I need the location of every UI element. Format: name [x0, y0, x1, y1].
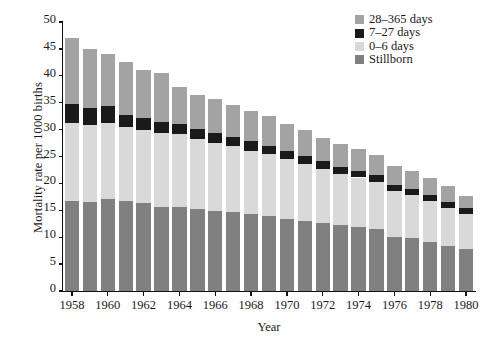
bar-segment	[244, 214, 258, 291]
stacked-bar-chart: Mortality rate per 1000 births 051015202…	[0, 0, 496, 347]
legend-item: Stillborn	[355, 53, 433, 66]
bar-segment	[369, 229, 383, 291]
bar-segment	[423, 242, 437, 291]
bar-1975	[369, 155, 383, 291]
y-tick-mark	[59, 290, 63, 291]
bar-segment	[244, 141, 258, 150]
bar-segment	[101, 54, 115, 106]
bar-1968	[244, 111, 258, 291]
x-tick-label: 1972	[310, 299, 335, 312]
bar-segment	[369, 182, 383, 229]
bar-segment	[226, 137, 240, 146]
x-tick-mark	[71, 291, 72, 296]
bar-segment	[262, 216, 276, 291]
x-tick-mark	[107, 291, 108, 296]
bar-1978	[423, 177, 437, 291]
bar-segment	[280, 151, 294, 159]
bar-segment	[405, 238, 419, 291]
bar-segment	[262, 154, 276, 216]
y-tick-label: 10	[44, 228, 57, 241]
bar-1958	[65, 38, 79, 291]
y-tick-mark	[59, 48, 63, 49]
bar-segment	[387, 237, 401, 291]
y-tick-label: 15	[44, 201, 57, 214]
x-tick-label: 1980	[454, 299, 479, 312]
legend-swatch-icon	[355, 55, 364, 64]
bar-segment	[154, 133, 168, 207]
bar-segment	[423, 195, 437, 201]
bar-segment	[262, 146, 276, 154]
bar-1962	[136, 70, 150, 291]
bar-segment	[423, 178, 437, 195]
bar-1980	[459, 196, 473, 291]
legend-label: 0–6 days	[369, 40, 414, 53]
y-tick-label: 25	[44, 148, 57, 161]
bar-segment	[441, 202, 455, 207]
bar-segment	[190, 129, 204, 139]
bar-segment	[154, 207, 168, 291]
bar-segment	[333, 144, 347, 167]
y-tick-label: 45	[44, 40, 57, 53]
y-tick-mark	[59, 21, 63, 22]
bar-segment	[119, 201, 133, 291]
bar-segment	[387, 166, 401, 185]
y-tick-label: 30	[44, 121, 57, 134]
bar-segment	[351, 171, 365, 178]
y-tick-label: 50	[44, 13, 57, 26]
bar-segment	[405, 195, 419, 239]
bar-segment	[298, 156, 312, 164]
x-axis-title: Year	[63, 320, 475, 335]
legend-label: 28–365 days	[369, 13, 433, 26]
bar-segment	[226, 105, 240, 137]
bar-segment	[208, 99, 222, 132]
legend-swatch-icon	[355, 29, 364, 38]
bar-1972	[316, 138, 330, 291]
bar-segment	[405, 189, 419, 195]
x-tick-mark	[250, 291, 251, 296]
bar-segment	[101, 123, 115, 199]
bar-1967	[226, 105, 240, 291]
bar-segment	[154, 73, 168, 122]
x-tick-label: 1962	[131, 299, 156, 312]
bar-segment	[208, 143, 222, 211]
y-tick-label: 0	[50, 282, 56, 295]
x-tick-mark	[394, 291, 395, 296]
bar-segment	[83, 125, 97, 201]
bar-segment	[369, 155, 383, 175]
bar-segment	[351, 178, 365, 227]
bar-segment	[298, 130, 312, 156]
bar-segment	[172, 207, 186, 291]
bar-segment	[459, 214, 473, 250]
bar-segment	[190, 95, 204, 129]
bar-segment	[280, 124, 294, 151]
legend-swatch-icon	[355, 15, 364, 24]
y-tick-label: 5	[50, 255, 56, 268]
bar-segment	[459, 249, 473, 291]
x-tick-mark	[215, 291, 216, 296]
bar-segment	[136, 203, 150, 291]
bar-1966	[208, 99, 222, 291]
bar-segment	[441, 208, 455, 246]
bar-segment	[280, 159, 294, 219]
bar-segment	[208, 133, 222, 143]
legend-item: 0–6 days	[355, 40, 433, 53]
bar-segment	[405, 171, 419, 189]
bar-1977	[405, 171, 419, 292]
x-tick-mark	[322, 291, 323, 296]
bar-1969	[262, 116, 276, 291]
bar-segment	[351, 227, 365, 291]
legend-label: 7–27 days	[369, 26, 420, 39]
x-tick-label: 1960	[95, 299, 120, 312]
bar-segment	[101, 106, 115, 122]
y-tick-mark	[59, 102, 63, 103]
bar-segment	[333, 174, 347, 226]
bar-segment	[423, 201, 437, 242]
bar-segment	[119, 62, 133, 114]
bar-segment	[387, 185, 401, 191]
bar-segment	[172, 87, 186, 125]
bar-1963	[154, 73, 168, 291]
bar-segment	[459, 196, 473, 208]
bar-1971	[298, 130, 312, 291]
bar-1974	[351, 149, 365, 291]
bar-segment	[316, 161, 330, 169]
